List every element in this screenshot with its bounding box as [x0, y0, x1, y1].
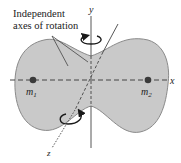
- rotation-axes-diagram: Independent axes of rotation y x z m1 m2: [0, 0, 181, 163]
- mass-1-dot: [30, 77, 37, 84]
- axes-label-line1: Independent: [13, 8, 65, 19]
- x-axis-label: x: [169, 75, 175, 86]
- mass-2-dot: [145, 77, 152, 84]
- z-axis-label: z: [46, 148, 51, 158]
- y-axis-label: y: [88, 4, 94, 15]
- axes-label-line2: axes of rotation: [13, 20, 79, 31]
